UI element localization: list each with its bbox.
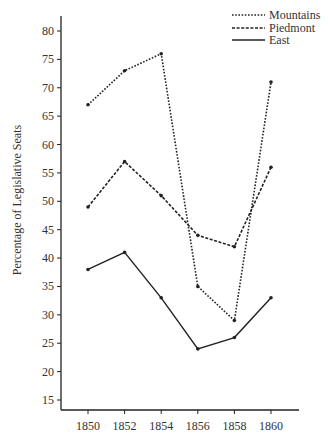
data-point [196,234,200,238]
y-tick-label: 55 [42,166,54,180]
y-tick-label: 65 [42,109,54,123]
legend: MountainsPiedmontEast [232,8,321,47]
data-point [123,69,127,73]
y-tick-label: 40 [42,251,54,265]
y-tick-label: 70 [42,81,54,95]
y-tick-label: 45 [42,223,54,237]
data-point [159,296,163,300]
data-point [123,251,127,255]
data-point [269,165,273,169]
data-point [159,52,163,56]
series-piedmont [86,160,273,249]
y-tick-label: 80 [42,24,54,38]
data-point [123,160,127,164]
y-tick-label: 15 [42,393,54,407]
series-group [86,52,273,351]
x-tick-label: 1856 [186,419,210,433]
series-mountains [86,52,273,322]
x-tick-label: 1850 [76,419,100,433]
axes: 1520253035404550556065707580185018521854… [42,16,299,433]
series-line [88,54,271,321]
data-point [196,347,200,351]
data-point [86,103,90,107]
y-tick-label: 35 [42,279,54,293]
y-tick-label: 50 [42,194,54,208]
x-tick-label: 1858 [222,419,246,433]
line-chart: 1520253035404550556065707580185018521854… [0,0,332,448]
data-point [233,245,237,249]
x-tick-label: 1854 [149,419,173,433]
y-tick-label: 30 [42,308,54,322]
x-tick-label: 1852 [113,419,137,433]
legend-label-mountains: Mountains [269,8,321,22]
x-tick-label: 1860 [259,419,283,433]
legend-label-east: East [269,33,290,47]
data-point [269,296,273,300]
data-point [233,336,237,340]
y-tick-label: 20 [42,365,54,379]
data-point [196,285,200,289]
series-line [88,252,271,349]
data-point [86,268,90,272]
y-tick-label: 25 [42,336,54,350]
data-point [269,80,273,84]
series-east [86,251,273,351]
y-axis-label: Percentage of Legislative Seats [10,125,24,276]
data-point [86,205,90,209]
data-point [159,194,163,198]
y-tick-label: 75 [42,52,54,66]
data-point [233,319,237,323]
y-tick-label: 60 [42,138,54,152]
